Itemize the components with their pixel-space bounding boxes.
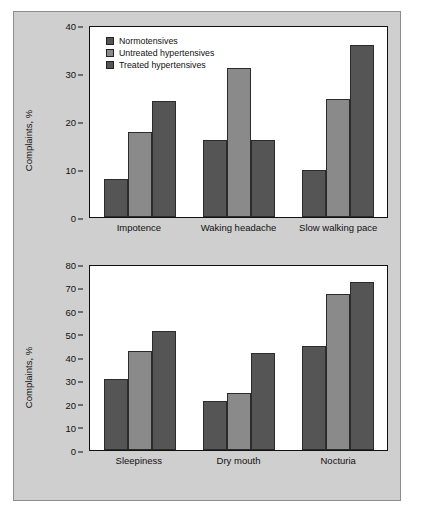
upper-x-axis-labels: ImpotenceWaking headacheSlow walking pac… <box>89 222 388 233</box>
lower-bars-layer <box>90 266 387 450</box>
bar <box>104 379 128 450</box>
bar <box>104 179 128 217</box>
bar <box>350 282 374 450</box>
bar <box>326 294 350 450</box>
lower-y-axis-ticks: 01020304050607080 <box>38 265 84 451</box>
legend-item: Normotensives <box>106 35 214 46</box>
y-axis-tick-label: 40 <box>65 21 76 32</box>
bar <box>152 331 176 450</box>
y-axis-tick-label: 0 <box>71 446 76 457</box>
bar-group <box>90 266 189 450</box>
upper-plot-area: NormotensivesUntreated hypertensivesTrea… <box>89 26 388 218</box>
y-axis-tick-label: 10 <box>65 422 76 433</box>
bar-group <box>189 266 288 450</box>
legend-item: Treated hypertensives <box>106 59 214 70</box>
y-axis-tick-label: 20 <box>65 117 76 128</box>
legend-item: Untreated hypertensives <box>106 47 214 58</box>
y-axis-tick-label: 10 <box>65 165 76 176</box>
bar-group <box>288 266 387 450</box>
upper-y-axis-ticks: 010203040 <box>38 26 84 218</box>
x-axis-category-label: Waking headache <box>189 222 289 233</box>
bar <box>251 140 275 217</box>
upper-y-axis-title: Complaints, % <box>20 26 38 254</box>
x-axis-category-label: Sleepiness <box>89 455 189 466</box>
y-axis-tick-label: 0 <box>71 213 76 224</box>
bar <box>350 45 374 217</box>
bar <box>302 346 326 450</box>
x-axis-category-label: Impotence <box>89 222 189 233</box>
bar <box>128 351 152 451</box>
legend-item-label: Normotensives <box>119 36 178 46</box>
lower-x-axis-labels: SleepinessDry mouthNocturia <box>89 455 388 466</box>
y-axis-tick-label: 20 <box>65 399 76 410</box>
upper-chart: Complaints, % 010203040 NormotensivesUnt… <box>14 26 402 254</box>
bar <box>203 401 227 450</box>
x-axis-category-label: Nocturia <box>288 455 388 466</box>
y-axis-tick-label: 70 <box>65 283 76 294</box>
bar <box>251 353 275 450</box>
bar-group <box>288 27 387 217</box>
bar <box>227 68 251 217</box>
y-axis-tick-label: 40 <box>65 353 76 364</box>
lower-y-axis-title: Complaints, % <box>20 265 38 489</box>
legend-item-label: Treated hypertensives <box>119 60 206 70</box>
bar <box>326 99 350 217</box>
figure-panel: Complaints, % 010203040 NormotensivesUnt… <box>13 11 401 501</box>
bar <box>128 132 152 217</box>
x-axis-category-label: Dry mouth <box>189 455 289 466</box>
y-axis-tick-label: 50 <box>65 329 76 340</box>
legend-item-label: Untreated hypertensives <box>119 48 214 58</box>
lower-chart: Complaints, % 01020304050607080 Sleepine… <box>14 265 402 489</box>
y-axis-tick-label: 60 <box>65 306 76 317</box>
lower-plot-area <box>89 265 388 451</box>
bar <box>227 393 251 450</box>
legend: NormotensivesUntreated hypertensivesTrea… <box>106 35 214 71</box>
y-axis-tick-label: 80 <box>65 260 76 271</box>
x-axis-category-label: Slow walking pace <box>288 222 388 233</box>
bar <box>302 170 326 217</box>
legend-swatch-icon <box>106 61 114 69</box>
y-axis-tick-label: 30 <box>65 376 76 387</box>
y-axis-tick-label: 30 <box>65 69 76 80</box>
bar <box>203 140 227 217</box>
bar <box>152 101 176 217</box>
legend-swatch-icon <box>106 37 114 45</box>
legend-swatch-icon <box>106 49 114 57</box>
